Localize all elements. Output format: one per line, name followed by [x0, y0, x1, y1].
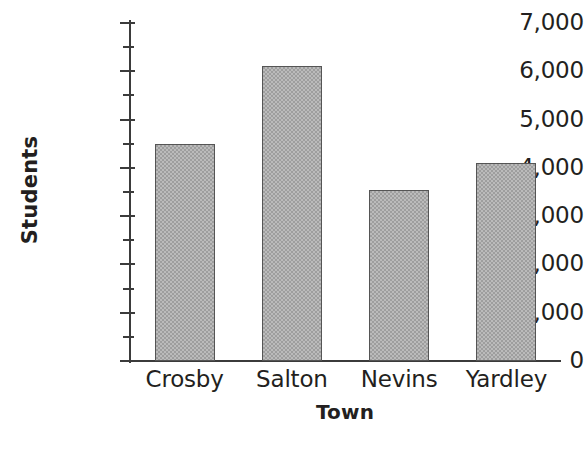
bar-salton — [262, 66, 322, 361]
y-axis-minor-tick — [123, 336, 134, 338]
y-axis-major-tick — [120, 215, 135, 217]
y-axis-tick-label: 6,000 — [472, 59, 584, 82]
x-axis-tick-label-yardley: Yardley — [453, 366, 560, 392]
x-axis-tick-label-crosby: Crosby — [131, 366, 238, 392]
y-axis-major-tick — [120, 360, 135, 362]
x-axis-tick-label-salton: Salton — [238, 366, 345, 392]
bar-nevins — [369, 190, 429, 361]
y-axis-major-tick — [120, 263, 135, 265]
y-axis-minor-tick — [123, 239, 134, 241]
bar-chart: Students 7,0006,0005,0004,0003,0002,0001… — [0, 0, 584, 449]
y-axis-minor-tick — [123, 46, 134, 48]
y-axis-major-tick — [120, 70, 135, 72]
x-axis-label: Town — [130, 400, 560, 424]
y-axis-tick-label: 7,000 — [472, 11, 584, 34]
y-axis-minor-tick — [123, 191, 134, 193]
bar-crosby — [155, 144, 215, 361]
y-axis-major-tick — [120, 22, 135, 24]
x-axis-tick-label-nevins: Nevins — [346, 366, 453, 392]
y-axis-major-tick — [120, 167, 135, 169]
y-axis-minor-tick — [123, 143, 134, 145]
y-axis-major-tick — [120, 119, 135, 121]
y-axis-major-tick — [120, 312, 135, 314]
y-axis-tick-label: 5,000 — [472, 108, 584, 131]
y-axis-minor-tick — [123, 94, 134, 96]
bar-yardley — [476, 163, 536, 361]
y-axis-label-text: Students — [18, 136, 42, 244]
y-axis-label: Students — [0, 0, 60, 380]
y-axis-minor-tick — [123, 288, 134, 290]
